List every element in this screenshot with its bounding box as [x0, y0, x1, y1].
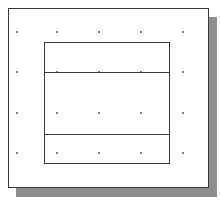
- grid-dot: [182, 71, 184, 73]
- grid-dot: [182, 112, 184, 114]
- grid-dot: [16, 152, 18, 154]
- grid-dot: [182, 31, 184, 33]
- grid-dot: [140, 31, 142, 33]
- grid-dot: [98, 31, 100, 33]
- grid-dot: [16, 71, 18, 73]
- grid-dot: [16, 31, 18, 33]
- rectangle-divider-bottom[interactable]: [45, 134, 169, 135]
- grid-dot: [182, 152, 184, 154]
- drawing-canvas[interactable]: [0, 0, 220, 202]
- divided-rectangle-shape[interactable]: [44, 42, 170, 164]
- rectangle-divider-top[interactable]: [45, 72, 169, 73]
- grid-dot: [56, 31, 58, 33]
- grid-dot: [16, 112, 18, 114]
